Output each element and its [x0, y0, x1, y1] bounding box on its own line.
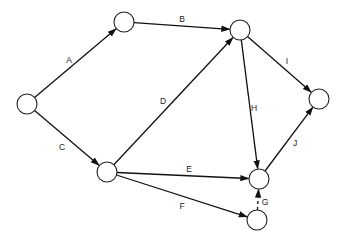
edges-layer [35, 23, 313, 217]
edge-label-c: C [59, 142, 65, 152]
edge-label-g: G [262, 197, 269, 207]
edge-g-arrow [258, 190, 259, 211]
edge-c-arrow [35, 111, 99, 166]
edge-label-d: D [160, 96, 166, 106]
network-diagram: ABCDEFGHIJ [0, 0, 342, 240]
node-n7-circle [247, 210, 267, 230]
nodes-layer [17, 12, 329, 230]
edge-label-h: H [251, 103, 257, 113]
edge-label-b: B [179, 14, 185, 24]
edge-label-i: I [286, 56, 288, 66]
edge-label-j: J [293, 138, 297, 148]
edge-label-a: A [66, 55, 72, 65]
node-n1-circle [17, 94, 37, 114]
node-n6-circle [249, 169, 269, 189]
node-n5-circle [97, 162, 117, 182]
edge-i-arrow [248, 37, 312, 93]
node-n4-circle [309, 89, 329, 109]
edge-e-arrow [117, 173, 249, 179]
edge-label-f: F [179, 201, 184, 211]
node-n3-circle [230, 20, 250, 40]
edge-label-e: E [186, 164, 192, 174]
node-n2-circle [114, 12, 134, 32]
edge-j-arrow [265, 107, 313, 171]
edge-d-arrow [114, 38, 233, 165]
edge-a-arrow [35, 29, 116, 98]
